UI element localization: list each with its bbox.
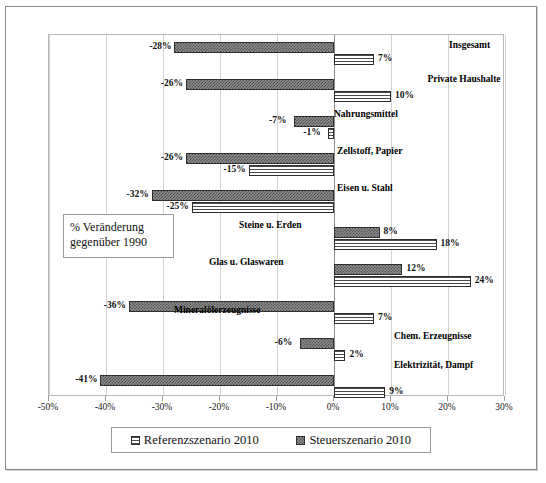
bar-steuer[interactable] — [300, 338, 334, 349]
category-label: Chem. Erzeugnisse — [394, 331, 472, 342]
axis-tick-label--30: -30% — [152, 402, 173, 412]
category-label: Elektrizität, Dampf — [394, 360, 473, 371]
axis-tick-label--50: -50% — [38, 402, 59, 412]
axis-tick--50 — [48, 396, 49, 401]
chart-frame: -28%7%-26%10%-7%-1%-26%-15%-32%-25%8%18%… — [5, 6, 537, 470]
bar-steuer[interactable] — [174, 42, 334, 53]
bar-value-label: 24% — [475, 275, 494, 286]
axis-tick-label-0: 0% — [327, 402, 340, 412]
bar-value-label: -26% — [161, 78, 183, 89]
axis-tick-0 — [333, 396, 334, 401]
axis-tick-30 — [504, 396, 505, 401]
bar-steuer[interactable] — [100, 375, 334, 386]
axis-tick--40 — [105, 396, 106, 401]
category-label: Private Haushalte — [422, 73, 506, 85]
category-label: Mineralölerzeugnisse — [174, 305, 261, 316]
bar-value-label: -6% — [275, 337, 292, 348]
bar-referenz[interactable] — [192, 202, 335, 213]
category-label: Glas u. Glaswaren — [209, 257, 284, 268]
category-label: Eisen u. Stahl — [337, 183, 393, 194]
axis-tick-label-20: 20% — [438, 402, 455, 412]
bar-referenz[interactable] — [334, 313, 374, 324]
bar-referenz[interactable] — [328, 128, 334, 139]
bar-row: -7%-1% — [49, 114, 503, 151]
bar-value-label: -7% — [269, 115, 286, 126]
bar-value-label: -26% — [161, 152, 183, 163]
bar-row: -26%-15% — [49, 151, 503, 188]
bar-row: -28%7% — [49, 40, 503, 77]
annotation-line-1: % Veränderung — [70, 220, 173, 235]
gridline-30 — [505, 35, 506, 395]
bar-value-label: 7% — [378, 312, 392, 323]
bar-referenz[interactable] — [334, 276, 471, 287]
bar-value-label: 10% — [395, 90, 414, 101]
axis-tick--20 — [219, 396, 220, 401]
bar-referenz[interactable] — [334, 91, 391, 102]
bar-value-label: 12% — [406, 263, 425, 274]
bar-value-label: 8% — [384, 226, 398, 237]
bar-value-label: -36% — [104, 300, 126, 311]
bar-value-label: -15% — [224, 164, 246, 175]
bar-referenz[interactable] — [334, 54, 374, 65]
annotation-line-2: gegenüber 1990 — [70, 235, 173, 250]
bar-steuer[interactable] — [186, 153, 334, 164]
legend-item-referenzszenario[interactable]: Referenzszenario 2010 — [131, 433, 259, 448]
axis-tick-label-10: 10% — [381, 402, 398, 412]
bar-steuer[interactable] — [334, 227, 380, 238]
category-label: Steine u. Erden — [239, 220, 302, 231]
category-label: Insgesamt — [449, 40, 490, 51]
axis-tick-label--20: -20% — [209, 402, 230, 412]
category-label: Nahrungsmittel — [334, 109, 398, 120]
bar-steuer[interactable] — [152, 190, 334, 201]
bar-steuer[interactable] — [334, 264, 402, 275]
bar-referenz[interactable] — [249, 165, 335, 176]
axis-tick--10 — [276, 396, 277, 401]
axis-tick-label-30: 30% — [495, 402, 512, 412]
axis-tick--30 — [162, 396, 163, 401]
legend-swatch-referenzszenario-icon — [131, 436, 140, 445]
bar-value-label: -28% — [149, 41, 171, 52]
axis-tick-label--40: -40% — [95, 402, 116, 412]
category-label: Zellstoff, Papier — [337, 146, 402, 157]
axis-tick-10 — [390, 396, 391, 401]
bar-referenz[interactable] — [334, 350, 345, 361]
bar-value-label: 18% — [441, 238, 460, 249]
bar-value-label: -25% — [167, 201, 189, 212]
bar-value-label: -32% — [127, 189, 149, 200]
legend-item-steuerszenario[interactable]: Steuerszenario 2010 — [296, 433, 411, 448]
annotation-box: % Veränderung gegenüber 1990 — [63, 214, 174, 258]
bar-steuer[interactable] — [186, 79, 334, 90]
axis-tick-label--10: -10% — [266, 402, 287, 412]
legend-label-steuerszenario: Steuerszenario 2010 — [309, 433, 411, 448]
x-axis: -50%-40%-30%-20%-10%0%10%20%30% — [48, 396, 504, 418]
bar-value-label: 7% — [378, 53, 392, 64]
axis-tick-20 — [447, 396, 448, 401]
legend-label-referenzszenario: Referenzszenario 2010 — [144, 433, 259, 448]
bar-value-label: -1% — [303, 127, 320, 138]
bar-value-label: -41% — [75, 374, 97, 385]
bar-referenz[interactable] — [334, 239, 437, 250]
bar-value-label: 2% — [349, 349, 363, 360]
chart-legend: Referenzszenario 2010 Steuerszenario 201… — [111, 427, 431, 453]
legend-swatch-steuerszenario-icon — [296, 436, 305, 445]
bar-steuer[interactable] — [294, 116, 334, 127]
